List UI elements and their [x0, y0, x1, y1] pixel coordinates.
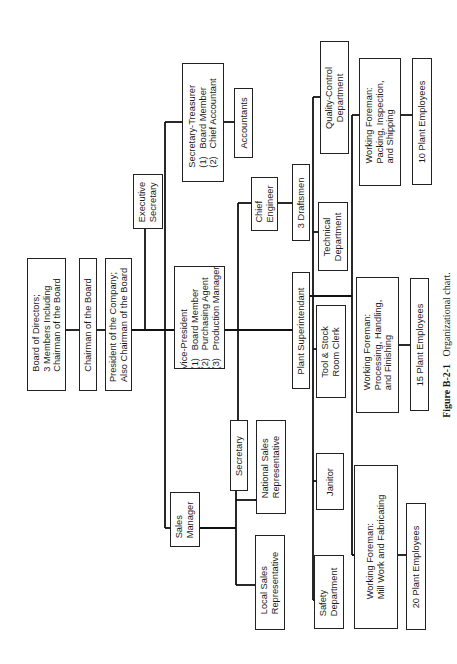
local-sales-rep-box: Local Sales Representative	[255, 535, 285, 630]
draftsmen-box: 3 Draftsmen	[292, 164, 310, 241]
foreman-processing-label: Working Foreman: Processing, Handling, a…	[362, 300, 394, 390]
safety-department-label: Safety Department	[318, 568, 339, 617]
plant-superintendant-label: Plant Superintendant	[296, 287, 307, 374]
quality-control-label: Quality-Control Department	[324, 66, 345, 128]
ten-plant-employees-box: 10 Plant Employees	[412, 58, 432, 185]
technical-department-box: Technical Department	[318, 202, 348, 271]
quality-control-box: Quality-Control Department	[320, 41, 349, 154]
ten-plant-employees-label: 10 Plant Employees	[417, 80, 428, 163]
board-of-directors-label: Board of Directors; 3 Members Including …	[31, 278, 63, 372]
plant-superintendant-box: Plant Superintendant	[292, 272, 310, 389]
chairman-label: Chairman of the Board	[83, 278, 94, 372]
accountants-label: Accountants	[238, 97, 249, 148]
national-sales-rep-box: National Sales Representative	[256, 420, 286, 514]
foreman-mill-box: Working Foreman: Mill Work and Fabricati…	[354, 465, 398, 629]
janitor-label: Janitor	[325, 468, 336, 496]
secretary-box: Secretary	[230, 420, 248, 491]
figure-title: Organizational chart.	[441, 272, 452, 356]
sales-manager-label: Sales Manager	[174, 501, 195, 538]
figure-caption: Figure B-2-1 Organizational chart.	[441, 272, 452, 418]
foreman-packing-label: Working Foreman: Packing, Inspection, an…	[364, 80, 396, 163]
president-label: President of the Company; Also Chairman …	[108, 267, 129, 381]
vice-president-label: Vice-President (1) Board Member (2) Purc…	[178, 266, 220, 369]
secretary-treasurer-box: Secretary-Treasurer (1) Board Member (2)…	[182, 63, 224, 182]
secretary-treasurer-label: Secretary-Treasurer (1) Board Member (2)…	[187, 78, 219, 167]
executive-secretary-label: Executive Secretary	[137, 181, 158, 221]
accountants-box: Accountants	[234, 88, 253, 158]
fifteen-plant-employees-label: 15 Plant Employees	[414, 303, 425, 386]
president-box: President of the Company; Also Chairman …	[105, 258, 132, 391]
vice-president-box: Vice-President (1) Board Member (2) Purc…	[174, 266, 225, 369]
sales-manager-box: Sales Manager	[170, 492, 200, 547]
draftsmen-label: 3 Draftsmen	[296, 177, 307, 228]
foreman-packing-box: Working Foreman: Packing, Inspection, an…	[359, 58, 401, 186]
chief-engineer-box: Chief Engineer	[251, 177, 278, 231]
national-sales-rep-label: National Sales Representative	[260, 436, 281, 499]
foreman-processing-box: Working Foreman: Processing, Handling, a…	[356, 277, 399, 413]
fifteen-plant-employees-box: 15 Plant Employees	[410, 278, 429, 411]
janitor-box: Janitor	[316, 453, 344, 510]
technical-department-label: Technical Department	[322, 212, 343, 261]
safety-department-box: Safety Department	[314, 555, 344, 629]
chief-engineer-label: Chief Engineer	[254, 185, 275, 222]
chairman-box: Chairman of the Board	[79, 258, 97, 391]
twenty-plant-employees-box: 20 Plant Employees	[406, 503, 426, 630]
foreman-mill-label: Working Foreman: Mill Work and Fabricati…	[365, 495, 386, 600]
board-of-directors-box: Board of Directors; 3 Members Including …	[27, 258, 66, 391]
local-sales-rep-label: Local Sales Representative	[259, 551, 280, 614]
figure-number: Figure B-2-1	[441, 364, 452, 418]
tool-stock-clerk-label: Tool & Stock Room Clerk	[320, 326, 341, 378]
secretary-label: Secretary	[234, 436, 245, 476]
twenty-plant-employees-label: 20 Plant Employees	[411, 525, 422, 608]
tool-stock-clerk-box: Tool & Stock Room Clerk	[316, 305, 346, 398]
executive-secretary-box: Executive Secretary	[133, 174, 163, 229]
